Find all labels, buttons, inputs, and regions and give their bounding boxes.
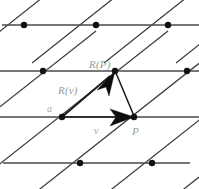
label-v: v [94, 125, 99, 136]
label-r-of-v: R(v) [57, 84, 78, 97]
lattice-dot [131, 114, 137, 120]
lattice-dot [40, 68, 46, 74]
lattice-dot [59, 114, 65, 120]
label-p: P [131, 125, 139, 137]
lattice-dot [21, 22, 27, 28]
lattice-dot [184, 68, 190, 74]
lattice-dot [112, 68, 118, 74]
lattice-dot [93, 22, 99, 28]
lattice-dot [77, 160, 83, 166]
label-a: a [47, 103, 52, 114]
figure-background [0, 0, 199, 189]
lattice-dot [149, 160, 155, 166]
lattice-dot [165, 22, 171, 28]
lattice-diagram-svg: R(P) R(v) a v P [0, 0, 199, 189]
label-r-of-p: R(P) [88, 58, 111, 71]
lattice-figure: R(P) R(v) a v P [0, 0, 199, 189]
